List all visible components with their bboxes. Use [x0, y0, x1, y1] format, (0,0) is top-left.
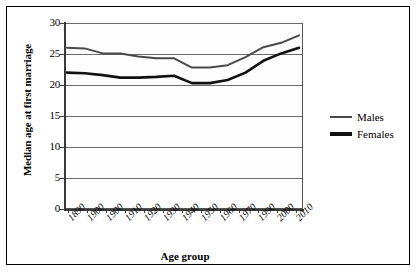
legend-label: Females	[357, 129, 394, 140]
y-tick-label: 30	[34, 17, 60, 28]
y-tick-label: 5	[34, 172, 60, 183]
y-tick-mark	[60, 85, 65, 86]
x-axis-title: Age group	[120, 250, 250, 262]
legend-item-males[interactable]: Males	[330, 110, 410, 124]
gridline	[66, 178, 302, 179]
gridline	[66, 116, 302, 117]
y-tick-mark	[60, 54, 65, 55]
legend-label: Males	[357, 112, 384, 123]
gridline	[66, 85, 302, 86]
y-tick-mark	[60, 178, 65, 179]
gridline	[66, 54, 302, 55]
gridline	[66, 147, 302, 148]
y-tick-mark	[60, 147, 65, 148]
y-tick-label: 20	[34, 79, 60, 90]
legend-item-females[interactable]: Females	[330, 127, 410, 141]
chart-figure: 051015202530 189019001900191019201930194…	[0, 0, 418, 278]
legend-swatch-icon	[330, 116, 352, 119]
plot-area	[65, 23, 303, 209]
legend-swatch-icon	[330, 132, 352, 136]
y-tick-mark	[60, 209, 65, 210]
y-tick-mark	[60, 23, 65, 24]
y-tick-label: 0	[34, 203, 60, 214]
y-axis-title: Median age at first marriage	[21, 35, 33, 185]
chart-legend: MalesFemales	[330, 110, 410, 144]
y-tick-label: 10	[34, 141, 60, 152]
y-tick-label: 25	[34, 48, 60, 59]
y-tick-label: 15	[34, 110, 60, 121]
gridline	[66, 23, 302, 24]
y-tick-mark	[60, 116, 65, 117]
